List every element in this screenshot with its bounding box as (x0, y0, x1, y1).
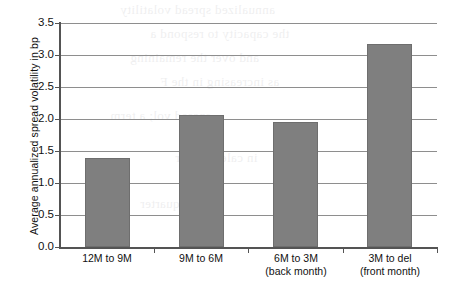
y-axis-tick (55, 119, 60, 120)
y-axis-tick (55, 23, 60, 24)
y-tick-label: 1.5 (24, 144, 54, 156)
y-axis-tick (55, 183, 60, 184)
gridline (60, 23, 437, 24)
x-tick-label-line2: (back month) (249, 265, 343, 278)
x-tick-label-1: 9M to 6M (154, 252, 248, 265)
y-tick-label: 3.5 (24, 16, 54, 28)
bar-6m-to-3m (273, 122, 318, 247)
x-tick-label-0: 12M to 9M (60, 252, 154, 265)
x-axis-tick (437, 248, 438, 253)
y-tick-label: 2.0 (24, 112, 54, 124)
x-tick-label-3: 3M to del (front month) (343, 252, 437, 278)
x-tick-label-line1: 3M to del (368, 252, 411, 264)
y-tick-label: 2.5 (24, 80, 54, 92)
bar-12m-to-9m (85, 158, 130, 247)
ghost-text-line: annualized spread volatility (120, 2, 275, 18)
x-tick-label-line1: 9M to 6M (179, 252, 223, 264)
y-axis-tick (55, 247, 60, 248)
y-tick-label: 0.5 (24, 208, 54, 220)
y-axis-tick (55, 151, 60, 152)
x-tick-label-line1: 12M to 9M (82, 252, 132, 264)
bar-9m-to-6m (179, 115, 224, 247)
plot-area (60, 23, 437, 247)
y-axis-tick (55, 215, 60, 216)
y-axis-tick (55, 87, 60, 88)
y-axis-tick (55, 55, 60, 56)
x-tick-label-line1: 6M to 3M (274, 252, 318, 264)
bar-chart: annualized spread volatility the capacit… (0, 0, 453, 302)
y-axis-tick-labels: 3.5 3.0 2.5 2.0 1.5 1.0 0.5 0.0 (22, 23, 54, 247)
y-tick-label: 1.0 (24, 176, 54, 188)
bar-3m-to-del (367, 44, 412, 247)
x-tick-label-line2: (front month) (343, 265, 437, 278)
x-axis-tick-labels: 12M to 9M 9M to 6M 6M to 3M (back month)… (60, 252, 437, 298)
x-tick-label-2: 6M to 3M (back month) (249, 252, 343, 278)
y-tick-label: 0.0 (24, 240, 54, 252)
y-tick-label: 3.0 (24, 48, 54, 60)
